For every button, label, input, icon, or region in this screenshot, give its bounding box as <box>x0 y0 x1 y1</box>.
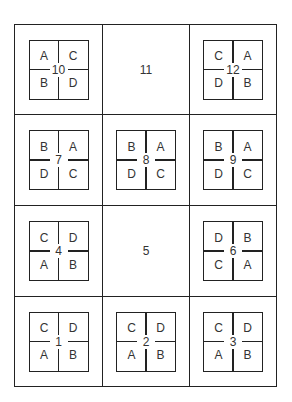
cell-number: 4 <box>30 245 88 257</box>
quadrant-box: B A D C 8 <box>116 130 176 190</box>
cell-number: 12 <box>204 64 262 76</box>
grid-cell-12: C A D B 12 <box>190 25 276 115</box>
quadrant-box: C D A B 3 <box>203 312 263 372</box>
grid-cell-11: 11 <box>103 25 190 115</box>
quadrant-box: C D A B 2 <box>116 312 176 372</box>
quadrant-box: C D A B 4 <box>29 221 89 281</box>
grid-cell-9: B A D C 9 <box>190 115 276 206</box>
quadrant-box: C D A B 1 <box>29 312 89 372</box>
grid-cell-5: 5 <box>103 206 190 297</box>
quadrant-box: D B C A 6 <box>203 221 263 281</box>
cell-number: 3 <box>204 336 262 348</box>
grid-cell-8: B A D C 8 <box>103 115 190 206</box>
quadrant-box: C A D B 12 <box>203 40 263 100</box>
grid-cell-1: C D A B 1 <box>15 297 103 386</box>
quadrant-box: A C B D 10 <box>29 40 89 100</box>
cell-number: 6 <box>204 245 262 257</box>
grid-cell-7: B A D C 7 <box>15 115 103 206</box>
cell-number: 8 <box>117 154 175 166</box>
cell-number: 7 <box>30 154 88 166</box>
quadrant-box: B A D C 9 <box>203 130 263 190</box>
cell-number: 1 <box>30 336 88 348</box>
grid-cell-6: D B C A 6 <box>190 206 276 297</box>
cell-number: 2 <box>117 336 175 348</box>
quadrant-box: B A D C 7 <box>29 130 89 190</box>
grid-cell-10: A C B D 10 <box>15 25 103 115</box>
cell-number: 9 <box>204 154 262 166</box>
grid-cell-4: C D A B 4 <box>15 206 103 297</box>
cell-number: 5 <box>143 244 150 258</box>
cell-number: 10 <box>30 64 88 76</box>
grid-cell-3: C D A B 3 <box>190 297 276 386</box>
grid-cell-2: C D A B 2 <box>103 297 190 386</box>
layout-grid: A C B D 10 11 C A D B 12 B A <box>14 24 277 387</box>
cell-number: 11 <box>140 63 152 77</box>
